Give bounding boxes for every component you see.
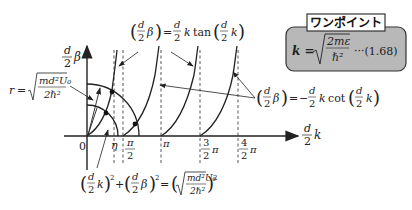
svg-text:cot: cot xyxy=(328,92,346,105)
svg-text:π: π xyxy=(126,137,134,148)
y-axis-label: d 2 β xyxy=(62,44,81,70)
svg-text:2: 2 xyxy=(174,32,180,43)
svg-text:3: 3 xyxy=(203,137,209,148)
svg-text:4: 4 xyxy=(241,137,247,148)
svg-text:d: d xyxy=(64,44,71,57)
x-axis-label: d 2 k xyxy=(302,122,321,148)
radius-arrow xyxy=(88,88,100,135)
svg-text:2: 2 xyxy=(203,150,209,161)
svg-text:β: β xyxy=(140,178,147,191)
intersection-point-3 xyxy=(133,122,138,127)
svg-text:k =: k = xyxy=(292,44,315,58)
svg-text:tan: tan xyxy=(193,26,211,39)
radius-leader xyxy=(70,86,93,100)
onepoint-title: ワンポイント xyxy=(310,15,382,30)
svg-text:2: 2 xyxy=(88,184,94,195)
svg-text:d: d xyxy=(309,85,315,96)
tan-leader-2 xyxy=(171,52,193,66)
cot-leader-2 xyxy=(233,72,255,98)
svg-text:d: d xyxy=(138,19,144,30)
svg-text:d: d xyxy=(88,171,94,182)
svg-text:(: ( xyxy=(213,21,220,42)
tan-equation: ( d 2 β ) = d 2 k tan ( d 2 k ) xyxy=(130,19,245,43)
svg-text:2: 2 xyxy=(356,98,362,109)
circle-equation: ( d 2 k ) 2 + ( d 2 β ) 2 = ( md²U₀ 2ℏ² … xyxy=(80,171,217,196)
diagram-canvas: d 2 β d 2 k 0 η π 2 π 3 2 π 4 2 π ( d 2 … xyxy=(0,0,412,210)
svg-text:2: 2 xyxy=(132,184,138,195)
svg-text:(: ( xyxy=(171,173,178,194)
tick-eta: η xyxy=(111,139,118,152)
svg-text:2: 2 xyxy=(221,32,227,43)
svg-text:r: r xyxy=(9,84,15,97)
svg-text:2: 2 xyxy=(127,150,133,161)
svg-text:2ℏ²: 2ℏ² xyxy=(43,89,61,100)
svg-text:d: d xyxy=(221,19,227,30)
intersection-point-1 xyxy=(110,90,115,95)
svg-text:k: k xyxy=(97,178,104,191)
cot-leader-1 xyxy=(160,85,255,98)
origin-label: 0 xyxy=(79,140,86,153)
onepoint-box: ワンポイント k = 2mε ℏ² ···(1.68) xyxy=(286,14,406,71)
svg-text:2: 2 xyxy=(155,174,159,182)
tick-pi: π xyxy=(162,138,170,149)
svg-text:2: 2 xyxy=(138,32,144,43)
svg-text:(: ( xyxy=(130,21,137,42)
svg-text:): ) xyxy=(281,87,288,108)
svg-text:k: k xyxy=(231,26,238,39)
svg-text:2: 2 xyxy=(309,98,315,109)
svg-text:): ) xyxy=(373,87,380,108)
svg-text:d: d xyxy=(304,122,311,135)
svg-text:md²U₀: md²U₀ xyxy=(39,75,71,86)
svg-text:2: 2 xyxy=(264,98,270,109)
intersection-point-2 xyxy=(104,111,109,116)
svg-text:π: π xyxy=(249,144,257,155)
svg-text:=: = xyxy=(17,84,26,97)
svg-text:d: d xyxy=(132,171,138,182)
svg-text:−: − xyxy=(299,92,308,105)
svg-text:2: 2 xyxy=(304,135,311,148)
svg-text:π: π xyxy=(211,144,219,155)
svg-text:2: 2 xyxy=(64,57,71,70)
svg-text:(: ( xyxy=(256,87,263,108)
svg-text:2: 2 xyxy=(241,150,247,161)
svg-text:k: k xyxy=(319,92,326,105)
svg-text:2: 2 xyxy=(213,174,217,182)
radius-label: r = md²U₀ 2ℏ² xyxy=(9,73,71,100)
svg-text:=: = xyxy=(160,178,169,191)
svg-text:+: + xyxy=(115,178,124,191)
tick-half-pi: π 2 xyxy=(125,137,135,161)
tick-four-half-pi: 4 2 π xyxy=(239,137,257,161)
svg-text:β: β xyxy=(272,92,279,105)
svg-text:ℏ²: ℏ² xyxy=(332,51,344,64)
cot-equation: ( d 2 β ) = − d 2 k cot ( d 2 k ) xyxy=(256,85,380,109)
svg-text:2ℏ²: 2ℏ² xyxy=(189,186,206,196)
svg-text:(: ( xyxy=(348,87,355,108)
svg-text:d: d xyxy=(264,85,270,96)
svg-text:(: ( xyxy=(124,173,131,194)
svg-text:2mε: 2mε xyxy=(326,35,350,48)
svg-text:β: β xyxy=(73,50,81,64)
svg-text:): ) xyxy=(238,21,245,42)
tick-three-half-pi: 3 2 π xyxy=(201,137,219,161)
svg-text:(: ( xyxy=(80,173,87,194)
svg-text:d: d xyxy=(174,19,180,30)
svg-text:): ) xyxy=(155,21,162,42)
svg-text:k: k xyxy=(184,26,191,39)
svg-text:2: 2 xyxy=(110,174,114,182)
svg-text:=: = xyxy=(289,92,298,105)
svg-text:β: β xyxy=(146,26,153,39)
tan-leader-1 xyxy=(119,52,138,66)
tan-curve-3 xyxy=(161,46,198,136)
svg-text:···(1.68): ···(1.68) xyxy=(354,45,398,58)
svg-text:k: k xyxy=(366,92,373,105)
svg-text:=: = xyxy=(163,26,172,39)
svg-text:d: d xyxy=(356,85,362,96)
svg-text:k: k xyxy=(314,128,321,142)
